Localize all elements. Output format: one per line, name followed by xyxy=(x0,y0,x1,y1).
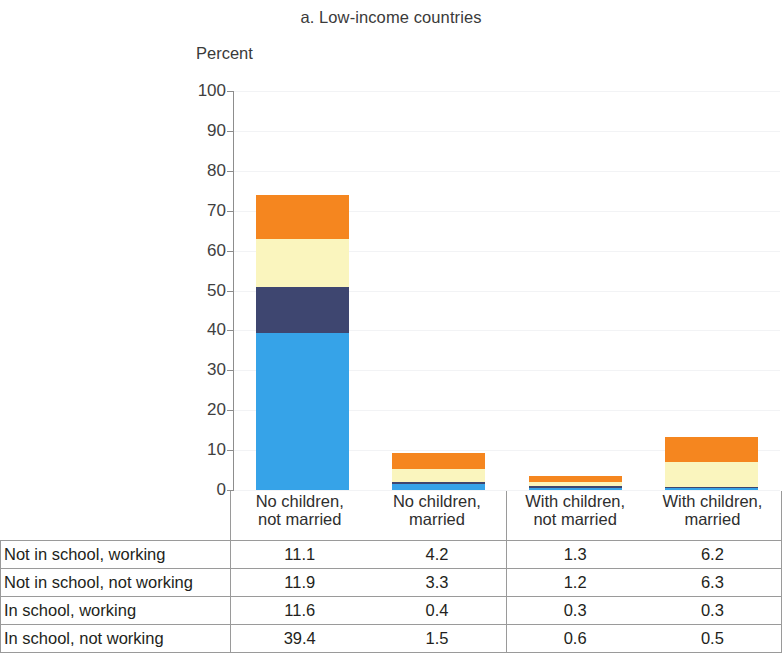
y-axis-tick-label: 60 xyxy=(178,241,226,261)
table-cell: 39.4 xyxy=(231,625,369,653)
table-row: In school, not working39.41.50.60.5 xyxy=(1,625,782,653)
table-cell: 1.5 xyxy=(368,625,506,653)
chart-title: a. Low-income countries xyxy=(0,8,782,27)
table-cell: 11.9 xyxy=(231,569,369,597)
column-header-line: married xyxy=(644,511,781,529)
bar-stack[interactable] xyxy=(392,453,485,490)
table-cell: 0.4 xyxy=(368,597,506,625)
row-label: In school, not working xyxy=(1,625,231,653)
bar-segment[interactable] xyxy=(392,484,485,490)
column-header-2: No children,married xyxy=(368,491,506,541)
gridline xyxy=(234,171,780,172)
table-cell: 0.3 xyxy=(644,597,782,625)
gridline xyxy=(234,131,780,132)
bar-stack[interactable] xyxy=(256,195,349,490)
column-header-line: No children, xyxy=(231,493,368,511)
bar-segment[interactable] xyxy=(665,462,758,487)
y-axis-tick-label: 50 xyxy=(178,281,226,301)
bar-stack[interactable] xyxy=(665,437,758,490)
column-header-1: No children,not married xyxy=(231,491,369,541)
gridline xyxy=(234,91,780,92)
bar-segment[interactable] xyxy=(665,437,758,462)
table-cell: 11.6 xyxy=(231,597,369,625)
table-cell: 1.3 xyxy=(506,541,644,569)
column-header-line: With children, xyxy=(507,493,644,511)
y-axis-tick-label: 40 xyxy=(178,320,226,340)
bar-segment[interactable] xyxy=(256,333,349,490)
column-header-line: not married xyxy=(507,511,644,529)
bar-segment[interactable] xyxy=(392,453,485,470)
y-axis-title: Percent xyxy=(196,44,253,63)
y-axis-tick-label: 20 xyxy=(178,400,226,420)
table-cell: 4.2 xyxy=(368,541,506,569)
bar-stack[interactable] xyxy=(529,476,622,490)
table-cell: 0.3 xyxy=(506,597,644,625)
column-header-3: With children,not married xyxy=(506,491,644,541)
bar-segment[interactable] xyxy=(256,239,349,286)
column-header-4: With children,married xyxy=(644,491,782,541)
table-cell: 0.5 xyxy=(644,625,782,653)
column-header-line: With children, xyxy=(644,493,781,511)
y-axis-tick-label: 10 xyxy=(178,440,226,460)
row-label: Not in school, not working xyxy=(1,569,231,597)
y-axis-tick-labels: 0102030405060708090100 xyxy=(178,91,226,490)
bar-segment[interactable] xyxy=(256,195,349,239)
table-row: Not in school, working11.14.21.36.2 xyxy=(1,541,782,569)
column-header-line: married xyxy=(368,511,505,529)
column-header-line: No children, xyxy=(368,493,505,511)
y-axis-tick-label: 80 xyxy=(178,161,226,181)
table-cell: 6.3 xyxy=(644,569,782,597)
y-axis-tick-label: 70 xyxy=(178,201,226,221)
column-header-line: not married xyxy=(231,511,368,529)
table-cell: 1.2 xyxy=(506,569,644,597)
y-axis-tick-label: 90 xyxy=(178,121,226,141)
table-header-row: No children,not marriedNo children,marri… xyxy=(1,491,782,541)
table-header-corner xyxy=(1,491,231,541)
table-cell: 11.1 xyxy=(231,541,369,569)
y-axis-tick-label: 30 xyxy=(178,360,226,380)
table-cell: 0.6 xyxy=(506,625,644,653)
table-cell: 3.3 xyxy=(368,569,506,597)
bar-segment[interactable] xyxy=(665,488,758,490)
table-row: In school, working11.60.40.30.3 xyxy=(1,597,782,625)
row-label: Not in school, working xyxy=(1,541,231,569)
table-cell: 6.2 xyxy=(644,541,782,569)
bar-segment[interactable] xyxy=(392,469,485,482)
table-row: Not in school, not working11.93.31.26.3 xyxy=(1,569,782,597)
row-label: In school, working xyxy=(1,597,231,625)
y-axis-tick-label: 100 xyxy=(178,81,226,101)
data-table: No children,not marriedNo children,marri… xyxy=(0,491,782,653)
bar-segment[interactable] xyxy=(529,488,622,490)
plot-area xyxy=(234,91,780,490)
bar-segment[interactable] xyxy=(256,287,349,333)
